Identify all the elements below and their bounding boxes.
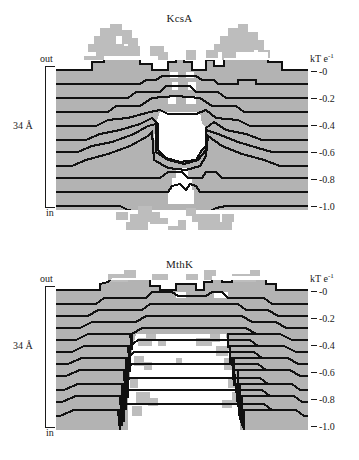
contour-plot-mthk <box>0 230 359 460</box>
contour-plot-kcsa <box>0 0 359 230</box>
panel-kcsa: KcsA out in 34 Å kT e-1 -0 -0.2 -0.4 -0.… <box>0 0 359 230</box>
panel-mthk: MthK out in 34 Å kT e-1 -0 -0.2 -0.4 -0.… <box>0 230 359 460</box>
